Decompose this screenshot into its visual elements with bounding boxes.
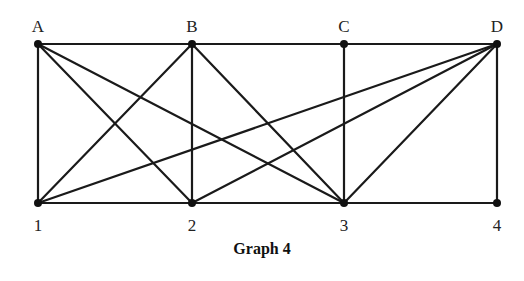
vertex-label-D: D (491, 17, 503, 36)
vertex-D (493, 40, 501, 48)
vertex-3 (340, 199, 348, 207)
vertex-label-C: C (338, 17, 349, 36)
vertex-A (34, 40, 42, 48)
vertex-label-A: A (32, 17, 45, 36)
vertex-label-2: 2 (188, 216, 197, 235)
edge-D-3 (344, 44, 497, 203)
vertex-2 (188, 199, 196, 207)
vertex-label-B: B (186, 17, 197, 36)
vertex-C (340, 40, 348, 48)
vertex-4 (493, 199, 501, 207)
edge-D-1 (38, 44, 497, 203)
edges (38, 44, 497, 203)
vertex-label-4: 4 (493, 216, 502, 235)
vertex-label-3: 3 (340, 216, 349, 235)
vertex-1 (34, 199, 42, 207)
vertex-label-1: 1 (34, 216, 43, 235)
graph-diagram: ABCD1234 (0, 0, 524, 281)
vertex-B (188, 40, 196, 48)
graph-caption: Graph 4 (0, 240, 524, 258)
